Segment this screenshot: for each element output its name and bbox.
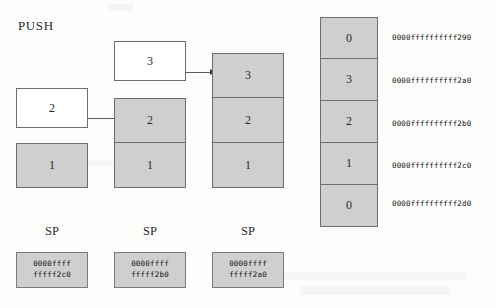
memory-cell: 2 xyxy=(320,101,378,143)
scan-artifact xyxy=(108,4,134,11)
push-stack-diagram: PUSH 2 3 1 2 1 3 2 1 xyxy=(0,0,496,308)
sp-value-line-2: fffff2b0 xyxy=(131,270,169,281)
stack-cell-value: 1 xyxy=(245,158,251,173)
memory-cell-value: 3 xyxy=(346,72,352,87)
sp-label-3: SP xyxy=(212,224,284,239)
sp-value-line-2: fffff2a0 xyxy=(229,270,267,281)
memory-address-label: 0000ffffffffff290 xyxy=(392,33,471,42)
sp-value-line-2: fffff2c0 xyxy=(33,270,71,281)
stack-cell: 1 xyxy=(114,143,186,188)
stack-cell: 1 xyxy=(16,143,88,188)
memory-address-label: 0000ffffffffff2c0 xyxy=(392,161,471,170)
memory-cell: 3 xyxy=(320,59,378,101)
sp-label-1: SP xyxy=(16,224,88,239)
incoming-value-label: 2 xyxy=(49,101,55,116)
sp-value-line-1: 0000ffff xyxy=(131,259,169,270)
memory-address-label: 0000ffffffffff2d0 xyxy=(392,199,471,208)
sp-value-line-1: 0000ffff xyxy=(229,259,267,270)
stack-step-3: 3 2 1 xyxy=(212,53,284,188)
memory-cell-value: 1 xyxy=(346,156,352,171)
stack-cell: 2 xyxy=(114,98,186,143)
memory-cell: 0 xyxy=(320,17,378,59)
stack-cell: 2 xyxy=(212,98,284,143)
stack-cell-value: 3 xyxy=(245,68,251,83)
stack-cell-value: 2 xyxy=(245,113,251,128)
memory-cell-value: 2 xyxy=(346,114,352,129)
memory-address-label: 0000ffffffffff2b0 xyxy=(392,119,471,128)
push-arrow-1-line xyxy=(88,118,116,119)
sp-value-box-1: 0000ffff fffff2c0 xyxy=(16,252,88,288)
incoming-value-label: 3 xyxy=(147,54,153,69)
stack-cell: 1 xyxy=(212,143,284,188)
scan-artifact xyxy=(276,272,466,280)
incoming-value-box-3: 3 xyxy=(114,41,186,81)
memory-cell: 0 xyxy=(320,185,378,227)
stack-step-2: 2 1 xyxy=(114,98,186,188)
incoming-value-box-2: 2 xyxy=(16,88,88,128)
scan-artifact xyxy=(300,286,450,295)
stack-cell-value: 2 xyxy=(147,113,153,128)
stack-cell-value: 1 xyxy=(147,158,153,173)
stack-cell: 3 xyxy=(212,53,284,98)
sp-value-box-2: 0000ffff fffff2b0 xyxy=(114,252,186,288)
figure-title: PUSH xyxy=(18,18,54,34)
push-arrow-2-line xyxy=(186,72,212,73)
memory-cell: 1 xyxy=(320,143,378,185)
memory-address-label: 0000ffffffffff2a0 xyxy=(392,76,471,85)
memory-column: 0 3 2 1 0 xyxy=(320,17,378,227)
stack-cell-value: 1 xyxy=(49,158,55,173)
memory-cell-value: 0 xyxy=(346,198,352,213)
memory-cell-value: 0 xyxy=(346,31,352,46)
sp-value-box-3: 0000ffff fffff2a0 xyxy=(212,252,284,288)
stack-step-1: 1 xyxy=(16,143,88,188)
sp-label-2: SP xyxy=(114,224,186,239)
sp-value-line-1: 0000ffff xyxy=(33,259,71,270)
